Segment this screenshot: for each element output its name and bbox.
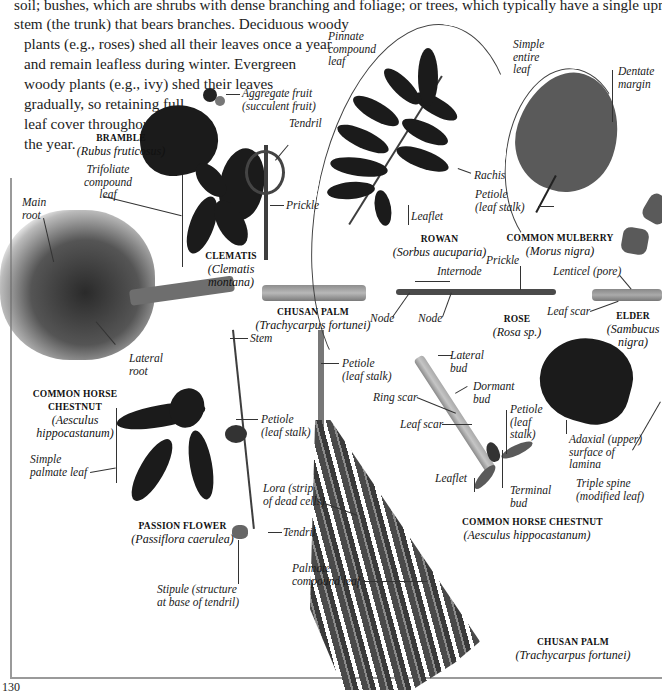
label-line: Lateral [129, 352, 163, 365]
label-tendril-bramble: Tendril [289, 117, 322, 130]
label-dentate-margin: Dentate margin [618, 65, 654, 90]
label-line: Dormant [473, 380, 515, 393]
label-stipule: Stipule (structure at base of tendril) [157, 583, 239, 608]
horse-chestnut-latin-name-2: hippocastanum) [30, 427, 120, 440]
leader-petiole-passion [236, 419, 258, 420]
label-line: entire [513, 51, 544, 64]
label-ring-scar: Ring scar [373, 391, 417, 404]
leader-adaxial [566, 420, 567, 434]
label-dormant-bud: Dormant bud [473, 380, 515, 405]
specimen-chusan-palm-leaf: CHUSAN PALM (Trachycarpus fortunei) [508, 636, 638, 662]
label-adaxial-surface: Adaxial (upper) surface of lamina [569, 433, 642, 471]
edge-leaf-2 [620, 226, 650, 256]
label-petiole-mulberry: Petiole (leaf stalk) [475, 188, 525, 213]
label-lenticel: Lenticel (pore) [553, 265, 621, 278]
label-line: bud [473, 393, 515, 406]
intro-line-3: plants (e.g., roses) shed all their leav… [24, 34, 332, 54]
intro-line-4: and remain leafless during winter. Everg… [24, 54, 296, 74]
label-lateral-bud: Lateral bud [450, 349, 484, 374]
label-tendril-passion: Tendril [283, 526, 316, 539]
elder-stem [592, 289, 662, 301]
label-line: Terminal [510, 484, 551, 497]
page-number: 130 [2, 680, 20, 695]
label-pinnate-compound-leaf: Pinnate compound leaf [328, 30, 376, 68]
label-line: of dead cells) [263, 495, 325, 508]
label-line: (leaf stalk) [342, 370, 392, 383]
label-node-1: Node [370, 312, 394, 325]
label-line: Petiole [342, 357, 392, 370]
label-line: root [22, 209, 46, 222]
specimen-rose: ROSE (Rosa sp.) [482, 313, 552, 339]
label-petiole-passion: Petiole (leaf stalk) [261, 413, 311, 438]
label-petiole-palm: Petiole (leaf stalk) [342, 357, 392, 382]
specimen-elder: ELDER (Sambucus nigra) [603, 310, 662, 349]
horse-chestnut-common-name-1: COMMON HORSE [30, 388, 120, 401]
edge-leaf-1 [640, 191, 662, 227]
label-prickle-bramble: Prickle [286, 199, 319, 212]
label-line: bud [510, 497, 551, 510]
chusan-palm-latin-name: (Trachycarpus fortunei) [248, 319, 378, 332]
specimen-horse-chestnut-twig: COMMON HORSE CHESTNUT (Aesculus hippocas… [462, 516, 592, 542]
intro-line-7: leaf cover throughout [24, 114, 155, 134]
label-simple-palmate-leaf: Simple palmate leaf [30, 453, 87, 478]
label-leaflet-chestnut: Leaflet [435, 472, 467, 485]
label-line: lamina [569, 458, 642, 471]
intro-line-2: stem (the trunk) that bears branches. De… [14, 14, 349, 34]
label-line: bud [450, 362, 484, 375]
label-line: leaf [328, 55, 376, 68]
leader-leaf-scar-chestnut [442, 424, 472, 425]
passion-flower-latin-name: (Passiflora caerulea) [120, 533, 245, 546]
leader-tendril-passion [268, 532, 282, 533]
label-line: Simple [30, 453, 87, 466]
specimen-clematis: CLEMATIS (Clematis montana) [196, 250, 266, 289]
leader-dormant-bud [455, 386, 468, 394]
label-line: compound leaf [292, 575, 360, 588]
passion-leaf-lobe-3 [184, 429, 218, 502]
specimen-rowan: ROWAN (Sorbus aucuparia) [382, 233, 497, 259]
palm-leaf-fan [310, 420, 480, 690]
label-line: surface of [569, 446, 642, 459]
label-triple-spine: Triple spine (modified leaf) [576, 477, 644, 502]
label-line: leaf [513, 63, 544, 76]
label-leaf-scar-chestnut: Leaf scar [400, 418, 443, 431]
leader-stipule [238, 540, 239, 584]
chusan-palm-leaf-latin-name: (Trachycarpus fortunei) [508, 649, 638, 662]
label-line: root [129, 365, 163, 378]
label-line: margin [618, 78, 654, 91]
label-line: stalk) [510, 428, 543, 441]
bramble-latin-name: (Rubus fruticosus) [66, 145, 176, 158]
label-line: (leaf stalk) [261, 426, 311, 439]
label-prickle-rose: Prickle [486, 254, 519, 267]
label-line: Lateral [450, 349, 484, 362]
palm-petiole [318, 330, 324, 430]
leader-simple-palmate [90, 467, 116, 472]
leader-aggregate-fruit [226, 94, 240, 95]
label-leaf-scar-elder: Leaf scar [547, 305, 590, 318]
rose-latin-name: (Rosa sp.) [482, 326, 552, 339]
label-palmate-compound-leaf: Palmate compound leaf [292, 562, 360, 587]
label-aggregate-fruit: Aggregate fruit (succulent fruit) [242, 87, 316, 112]
label-internode: Internode [437, 265, 482, 278]
leader-trifoliate-bracket [182, 175, 183, 267]
root-mass [0, 210, 155, 360]
label-stem-passion: Stem [250, 332, 272, 345]
leader-stem-passion [230, 338, 248, 339]
label-leaflet-rowan: Leaflet [411, 210, 443, 223]
label-lateral-root: Lateral root [129, 352, 163, 377]
label-line: Palmate [292, 562, 360, 575]
chestnut-leaflet-1 [499, 438, 534, 461]
label-line: leaf [84, 188, 132, 201]
leader-prickle-rose [520, 266, 521, 290]
label-petiole-chestnut: Petiole (leaf stalk) [510, 403, 543, 441]
intro-line-5: woody plants (e.g., ivy) shed their leav… [24, 74, 273, 94]
label-line: Lora (strip [263, 482, 325, 495]
leader-tendril-bramble [275, 145, 289, 161]
label-main-root: Main root [22, 196, 46, 221]
specimen-chusan-palm-stem: CHUSAN PALM (Trachycarpus fortunei) [248, 306, 378, 332]
label-terminal-bud: Terminal bud [510, 484, 551, 509]
leader-prickle-bramble [270, 205, 284, 206]
intro-line-1: soil; bushes, which are shrubs with dens… [14, 0, 662, 15]
label-line: Pinnate [328, 30, 376, 43]
label-line: compound [84, 176, 132, 189]
label-line: Triple spine [576, 477, 644, 490]
